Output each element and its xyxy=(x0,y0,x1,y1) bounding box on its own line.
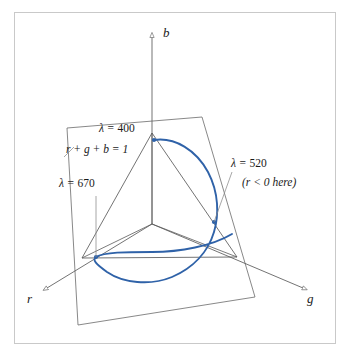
annotation-lambda-400: λ = 400 xyxy=(99,122,135,134)
annotation-r-negative-note: (r < 0 here) xyxy=(242,176,296,188)
point-lambda-400 xyxy=(152,138,156,142)
axis-g-line xyxy=(152,224,303,288)
axis-label-g: g xyxy=(307,291,314,307)
lambda-eq-400: = xyxy=(104,122,118,134)
lambda-value-670: 670 xyxy=(78,177,95,189)
figure-canvas xyxy=(0,0,349,358)
annotation-lambda-670: λ = 670 xyxy=(59,177,95,189)
lambda-eq-520: = xyxy=(236,157,250,169)
axis-label-r: r xyxy=(27,291,32,307)
lambda-value-400: 400 xyxy=(118,122,135,134)
lambda-eq-670: = xyxy=(64,177,78,189)
marked-points xyxy=(94,138,216,259)
annotation-plane-equation: r + g + b = 1 xyxy=(66,143,128,155)
spectral-locus-curve xyxy=(94,140,232,283)
figure-root: r g b λ = 400 r + g + b = 1 λ = 670 λ = … xyxy=(0,0,349,358)
lambda-value-520: 520 xyxy=(250,157,267,169)
axis-label-b: b xyxy=(163,25,170,41)
leader-lines xyxy=(64,147,232,257)
annotation-lambda-520: λ = 520 xyxy=(231,157,267,169)
